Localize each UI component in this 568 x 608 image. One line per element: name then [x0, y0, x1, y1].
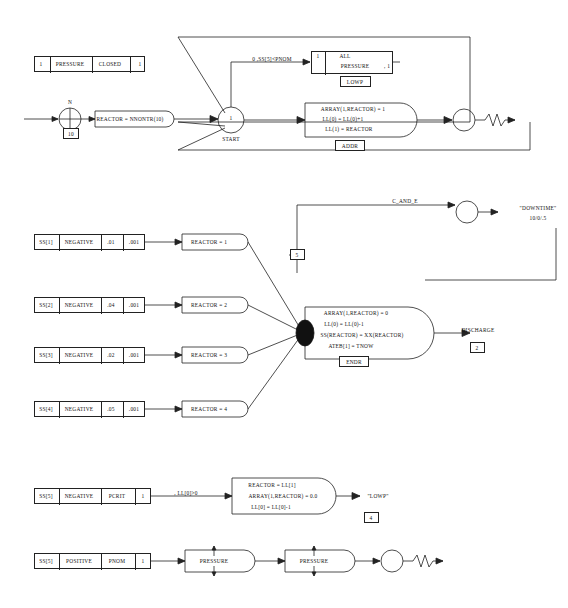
ss4-output-label: REACTOR = 4	[191, 406, 227, 412]
downtime-count-label: 5	[296, 252, 299, 258]
array-block2-line-3: ATEB[1] = TNOW	[328, 343, 373, 349]
addr-tag-label: ADDR	[342, 143, 358, 149]
array-block1-line-1: LL(0) = LL(0)+1	[323, 116, 364, 122]
block3-line-1: ARRAY(1,REACTOR) = 0.0	[248, 493, 317, 499]
ss1-cell-2: .01	[107, 239, 115, 245]
ss4-cell-2: .05	[107, 406, 115, 412]
ss5-condition-label: , LL[0]>0	[174, 490, 198, 496]
ss3-cell-0: SS[3]	[39, 352, 53, 358]
pressure-closed-box	[34, 56, 145, 72]
ss5-pnom-condition-label: 0 ,SS[5]<PNOM	[252, 56, 292, 62]
pressure-a-label: PRESSURE	[200, 558, 229, 564]
reactor-nnontr-label: REACTOR = NNONTR(10)	[96, 116, 163, 122]
array-block2-line-2: SS(REACTOR) = XX(REACTOR)	[320, 332, 403, 338]
ss4-cell-1: NEGATIVE	[65, 406, 94, 412]
input-n-label: N	[68, 99, 72, 105]
ss1-cell-0: SS[1]	[39, 239, 53, 245]
discharge-label: DISCHARGE	[461, 327, 494, 333]
pressure-closed-cell-1: PRESSURE	[56, 61, 85, 67]
input-10-label: 10	[68, 131, 74, 137]
ss1-output-label: REACTOR = 1	[191, 239, 227, 245]
ss5-cell-3: 1	[142, 493, 145, 499]
pressure-closed-cell-3: 1	[139, 61, 142, 67]
array-block1-line-2: LL(1) = REACTOR	[325, 126, 372, 132]
all-pressure-token: 1	[317, 53, 320, 59]
start-label: START	[222, 136, 240, 142]
array-block2-line-0: ARRAY(1,REACTOR) = 0	[324, 310, 389, 316]
pressure-b-label: PRESSURE	[300, 558, 329, 564]
ss6-cell-2: PNOM	[109, 558, 126, 564]
ss4-cell-0: SS[4]	[39, 406, 53, 412]
array-block1-line-0: ARRAY(1,REACTOR) = 1	[321, 106, 386, 112]
ss3-cell-2: .02	[107, 352, 115, 358]
ss6-cell-0: SS[5]	[39, 558, 53, 564]
ss4-cell-3: .001	[129, 406, 139, 412]
ss5-cell-1: NEGATIVE	[65, 493, 94, 499]
all-pressure-label-pressure: PRESSURE	[341, 63, 370, 69]
downtime-format: 10/0/.5	[530, 215, 547, 221]
ss2-cell-1: NEGATIVE	[65, 302, 94, 308]
ss2-cell-2: .04	[107, 302, 115, 308]
ss3-output-label: REACTOR = 3	[191, 352, 227, 358]
ss3-cell-3: .001	[129, 352, 139, 358]
start-token-label: 1	[230, 115, 233, 121]
pressure-closed-cell-0: 1	[40, 61, 43, 67]
array-block2-line-1: LL(0) = LL(0)-1	[324, 321, 364, 327]
ss3-cell-1: NEGATIVE	[65, 352, 94, 358]
ss5-cell-2: PCRIT	[109, 493, 126, 499]
downtime-title: "DOWNTIME"	[520, 205, 557, 211]
lowp-count-label: 4	[370, 515, 373, 521]
ss2-cell-0: SS[2]	[39, 302, 53, 308]
endr-tag-label: ENDR	[346, 359, 362, 365]
ss2-cell-3: .001	[129, 302, 139, 308]
ss5-cell-0: SS[5]	[39, 493, 53, 499]
ss6-cell-3: 1	[142, 558, 145, 564]
all-pressure-label-1: , 1	[384, 63, 390, 69]
lowp-tag-label: LOWP	[347, 79, 363, 85]
lowp-output-label: "LOWP"	[367, 493, 388, 499]
ss6-cell-1: POSITIVE	[66, 558, 92, 564]
pressure-closed-cell-2: CLOSED	[99, 61, 121, 67]
ss1-cell-1: NEGATIVE	[65, 239, 94, 245]
diagram-canvas: 1 PRESSURE CLOSED 1 1 ALL PRESSURE , 1 L…	[0, 0, 568, 608]
ss1-cell-3: .001	[129, 239, 139, 245]
block3-line-2: LL[0] = LL[0]-1	[251, 504, 291, 510]
block3-line-0: REACTOR = LL[1]	[248, 482, 295, 488]
all-pressure-label-all: ALL	[339, 53, 350, 59]
c-and-e-label: C_AND_E	[392, 198, 418, 204]
ss2-output-label: REACTOR = 2	[191, 302, 227, 308]
discharge-count-label: 2	[476, 345, 479, 351]
